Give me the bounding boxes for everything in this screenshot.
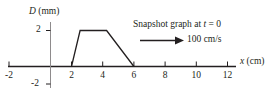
x-tick-label-4: 4 [100, 71, 105, 81]
snapshot-caption-prefix: Snapshot graph at [133, 19, 203, 29]
x-tick-label-neg2: -2 [5, 71, 13, 81]
snapshot-graph-figure: D (mm) x (cm) 2 -2 -2 2 4 6 8 10 12 Snap… [0, 0, 279, 99]
x-tick-label-6: 6 [132, 71, 137, 81]
snapshot-caption: Snapshot graph at t = 0 [133, 20, 221, 30]
y-axis-label-unit: (mm) [36, 6, 59, 16]
x-axis-label-unit: (cm) [244, 56, 264, 66]
x-tick-label-8: 8 [163, 71, 168, 81]
y-tick-label-2: 2 [36, 25, 41, 35]
y-axis-label: D (mm) [29, 7, 59, 17]
y-tick-label-neg2: -2 [31, 79, 39, 89]
x-tick-label-2: 2 [69, 71, 74, 81]
x-axis-label: x (cm) [240, 57, 265, 67]
y-axis-label-symbol: D [29, 6, 36, 16]
snapshot-caption-suffix: = 0 [206, 19, 221, 29]
x-tick-label-12: 12 [223, 71, 233, 81]
wave-pulse-curve [72, 31, 134, 67]
speed-label: 100 cm/s [187, 35, 222, 45]
x-tick-label-10: 10 [192, 71, 202, 81]
velocity-arrow-head [175, 37, 184, 45]
